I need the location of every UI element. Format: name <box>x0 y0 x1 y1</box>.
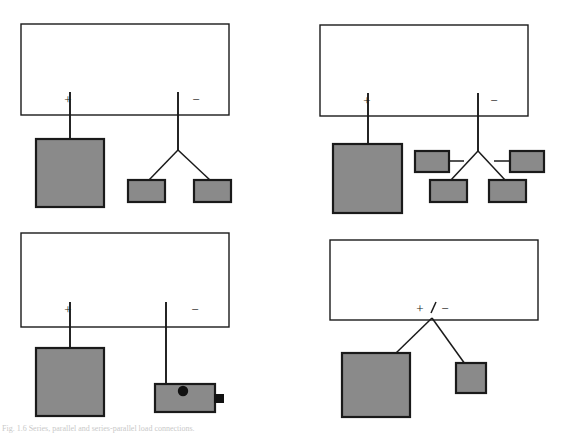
figure-caption: Fig. 1.6 Series, parallel and series-par… <box>2 424 422 434</box>
switch-knob-dot-icon <box>178 386 188 396</box>
load-small-upper-right-top-right <box>510 151 544 172</box>
terminal-label-plus-top-right: + <box>363 93 370 108</box>
load-small-lower-left-top-right <box>430 180 467 202</box>
figure-root: + − + − <box>0 0 561 436</box>
terminal-label-plus-bottom-right: + <box>416 301 423 316</box>
load-large-bottom-left <box>36 348 104 416</box>
terminal-label-minus-bottom-left: − <box>191 302 198 317</box>
load-small-lower-right-top-right <box>489 180 526 202</box>
load-large-bottom-right <box>342 353 410 417</box>
load-small-bottom-right <box>456 363 486 393</box>
terminal-label-minus-top-left: − <box>192 92 199 107</box>
load-large-top-left <box>36 139 104 207</box>
wire-branch-left-bottom-right <box>395 318 432 354</box>
wire-minus-branch-left-top-left <box>148 150 178 181</box>
load-small-upper-left-top-right <box>415 151 449 172</box>
terminal-tab-icon <box>214 394 224 403</box>
terminal-label-minus-bottom-right: − <box>441 301 448 316</box>
wire-branch-right-bottom-right <box>432 318 465 364</box>
panel-bottom-right: + − <box>330 240 538 417</box>
load-connection-diagram: + − + − <box>0 0 561 436</box>
load-large-top-right <box>333 144 402 213</box>
load-small-right-top-left <box>194 180 231 202</box>
terminal-label-minus-top-right: − <box>490 93 497 108</box>
panel-top-left: + − <box>21 24 231 207</box>
load-small-left-top-left <box>128 180 165 202</box>
panel-top-right: + − <box>320 25 544 213</box>
wire-minus-branch-left-top-right <box>450 151 478 181</box>
wire-minus-branch-right-top-right <box>478 151 506 181</box>
wire-minus-branch-right-top-left <box>178 150 211 181</box>
panel-bottom-left: + − <box>21 233 229 416</box>
